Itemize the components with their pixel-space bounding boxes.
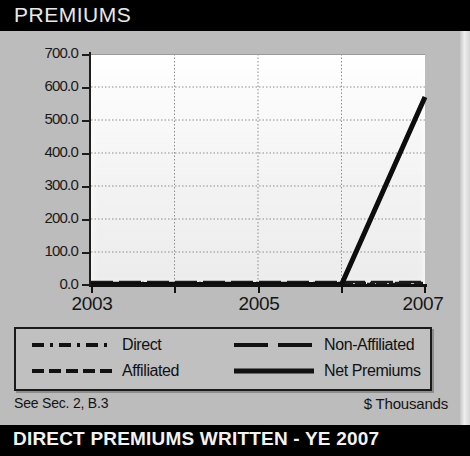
y-axis-tick: [82, 252, 91, 254]
y-axis-tick: [82, 87, 91, 89]
plot-svg: [91, 54, 425, 285]
bottom-bar: DIRECT PREMIUMS WRITTEN - YE 2007: [0, 425, 470, 456]
chart-body: 700.0 600.0 500.0 400.0 300.0 200.0 100.…: [0, 31, 470, 425]
y-tick-label: 200.0: [6, 209, 78, 226]
y-axis-tick: [82, 186, 91, 188]
y-tick-label: 0.0: [6, 275, 78, 292]
x-axis-tick: [424, 286, 426, 293]
chart-legend: Direct Non-Affiliated Affiliated Net Pre…: [14, 327, 432, 391]
legend-item-non-affiliated: Non-Affiliated: [232, 335, 414, 355]
y-axis-tick: [82, 284, 91, 286]
bottom-bar-title: DIRECT PREMIUMS WRITTEN - YE 2007: [13, 428, 379, 450]
legend-swatch-long-dash-icon: [232, 339, 316, 351]
y-axis-tick: [82, 120, 91, 122]
legend-swatch-dashed-icon: [30, 365, 114, 377]
paper-edge: [460, 31, 470, 425]
y-tick-label: 600.0: [6, 77, 78, 94]
legend-label: Non-Affiliated: [324, 336, 414, 354]
legend-swatch-dash-dot-icon: [30, 339, 114, 351]
gridlines-vertical: [175, 54, 342, 285]
x-tick-label: 2005: [238, 293, 279, 315]
plot-area: [91, 54, 425, 285]
page-title: PREMIUMS: [14, 3, 131, 27]
premiums-chart-panel: PREMIUMS 700.0 600.0 500.0 400.0 300.0 2…: [0, 0, 470, 456]
x-tick-label: 2007: [402, 293, 443, 315]
x-axis-tick: [174, 286, 176, 293]
y-axis-tick: [82, 219, 91, 221]
legend-label: Net Premiums: [324, 362, 421, 380]
x-axis-tick: [91, 286, 93, 293]
units-note: $ Thousands: [364, 395, 448, 412]
header-bar: PREMIUMS: [0, 0, 470, 31]
x-tick-label: 2003: [71, 293, 112, 315]
legend-item-direct: Direct: [30, 335, 161, 355]
y-tick-label: 700.0: [6, 44, 78, 61]
y-axis-tick: [82, 153, 91, 155]
legend-label: Direct: [122, 336, 161, 354]
y-axis-labels: 700.0 600.0 500.0 400.0 300.0 200.0 100.…: [0, 31, 78, 331]
legend-swatch-solid-icon: [232, 365, 316, 377]
legend-label: Affiliated: [122, 362, 179, 380]
y-tick-label: 400.0: [6, 143, 78, 160]
legend-item-affiliated: Affiliated: [30, 361, 179, 381]
x-axis-tick: [258, 286, 260, 293]
legend-item-net-premiums: Net Premiums: [232, 361, 421, 381]
y-tick-label: 300.0: [6, 176, 78, 193]
source-note: See Sec. 2, B.3: [14, 395, 108, 411]
y-tick-label: 500.0: [6, 110, 78, 127]
x-axis-tick: [341, 286, 343, 293]
y-tick-label: 100.0: [6, 242, 78, 259]
y-axis-tick: [82, 54, 91, 56]
